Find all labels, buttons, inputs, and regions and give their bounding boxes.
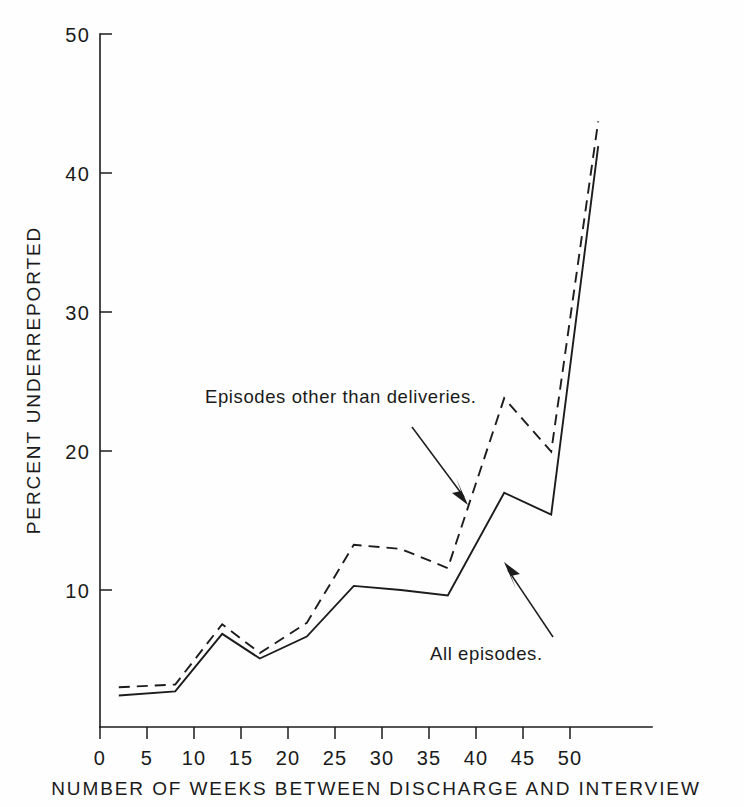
y-tick-label-30: 30 [65,302,90,324]
y-axis-ticks [100,34,112,590]
x-tick-label-45: 45 [511,747,536,769]
x-tick-label-35: 35 [417,747,442,769]
arrow-head-down-right-icon [452,478,468,505]
annotation-leader-solid [508,570,553,637]
x-axis-ticks [100,727,570,739]
chart-figure: 50 40 30 20 10 0 5 10 15 20 25 [0,0,744,807]
x-tick-label-0: 0 [94,747,106,769]
annotation-episodes-other-than-deliveries: Episodes other than deliveries. [205,386,477,505]
x-tick-label-10: 10 [182,747,207,769]
y-axis-tick-labels: 50 40 30 20 10 [65,24,90,602]
y-tick-label-20: 20 [65,441,90,463]
data-series-group [119,121,598,695]
x-tick-label-50: 50 [558,747,583,769]
annotation-label-dashed: Episodes other than deliveries. [205,386,477,407]
y-tick-label-10: 10 [65,580,90,602]
x-axis-tick-labels: 0 5 10 15 20 25 30 35 40 45 50 [94,747,582,769]
annotation-all-episodes: All episodes. [430,562,553,664]
x-tick-label-25: 25 [323,747,348,769]
chart-canvas: 50 40 30 20 10 0 5 10 15 20 25 [0,0,744,807]
x-axis-title: NUMBER OF WEEKS BETWEEN DISCHARGE AND IN… [51,778,701,799]
y-tick-label-50: 50 [65,24,90,46]
x-tick-label-30: 30 [370,747,395,769]
x-tick-label-20: 20 [276,747,301,769]
annotation-label-solid: All episodes. [430,643,543,664]
series-line-all-episodes [119,146,598,695]
y-tick-label-40: 40 [65,163,90,185]
y-axis-title: PERCENT UNDERREPORTED [23,226,44,534]
x-tick-label-40: 40 [464,747,489,769]
annotation-leader-dashed [412,427,464,497]
x-tick-label-5: 5 [141,747,153,769]
x-tick-label-15: 15 [229,747,254,769]
